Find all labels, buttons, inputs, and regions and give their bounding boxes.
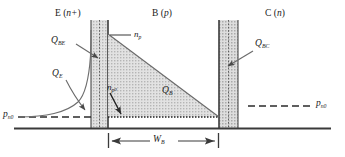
figure-canvas — [0, 0, 345, 157]
qe-subscript: E — [59, 73, 63, 79]
np-subscript: p — [139, 34, 142, 40]
collector-region-label: C (n) — [265, 9, 285, 19]
np-carrier-label: np — [134, 30, 141, 39]
qbe-charge-label: QBE — [51, 36, 65, 46]
be-depletion-region — [91, 20, 108, 128]
qbe-main: Q — [51, 35, 58, 45]
np0-subscript-zero: 0 — [114, 87, 116, 92]
bc-depletion-region — [219, 20, 238, 128]
qb-main: Q — [162, 85, 169, 95]
qbc-main: Q — [255, 38, 262, 48]
pn0-left-subscript-zero: 0 — [11, 114, 14, 120]
np-main: n — [134, 29, 139, 39]
np0-carrier-label: np0 — [107, 83, 117, 92]
qb-charge-label: QB — [162, 86, 172, 96]
emitter-doping: n+ — [66, 8, 77, 18]
qbc-subscript: BC — [262, 43, 270, 49]
base-charge-triangle — [108, 34, 219, 117]
np0-main: n — [107, 82, 112, 92]
wb-subscript: B — [161, 139, 165, 145]
qe-main: Q — [52, 68, 59, 78]
qbe-subscript: BE — [58, 40, 65, 46]
base-region-label: B (p) — [152, 9, 172, 19]
qbc-charge-label: QBC — [255, 39, 269, 49]
pn0-left-label: pn0 — [3, 110, 13, 120]
qb-subscript: B — [169, 90, 173, 96]
qe-charge-label: QE — [52, 69, 62, 79]
pn0-right-subscript-zero: 0 — [324, 103, 327, 109]
carrier-distribution-figure: E (n+) B (p) C (n) QBE QE QB QBC np np0 … — [0, 0, 345, 157]
emitter-region-label: E (n+) — [55, 9, 81, 19]
wb-main: W — [153, 134, 161, 144]
pn0-right-label: pn0 — [316, 99, 326, 109]
base-width-label: WB — [153, 135, 165, 145]
